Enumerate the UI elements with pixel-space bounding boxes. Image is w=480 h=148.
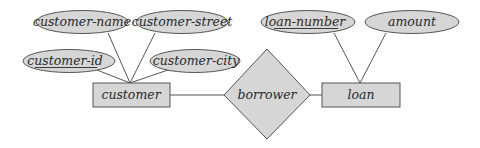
edge-amount <box>360 33 386 83</box>
entity-label: loan <box>347 87 374 102</box>
attribute-loan-number: loan-number <box>261 11 355 34</box>
entity-customer: customer <box>93 83 170 107</box>
attribute-label-primary-key: customer-id <box>27 53 102 68</box>
attribute-label: customer-name <box>33 14 131 29</box>
relationship-label: borrower <box>237 87 297 102</box>
er-diagram: customer-name customer-street customer-i… <box>0 0 480 148</box>
attribute-customer-name: customer-name <box>33 11 131 34</box>
attribute-label: customer-street <box>132 14 234 29</box>
attribute-label-primary-key: loan-number <box>265 14 347 29</box>
entity-loan: loan <box>322 83 400 107</box>
edge-loan-number <box>334 33 360 83</box>
attribute-customer-id: customer-id <box>23 50 115 73</box>
attribute-customer-street: customer-street <box>132 11 234 34</box>
attribute-label: amount <box>388 14 437 29</box>
attribute-customer-city: customer-city <box>150 50 240 73</box>
attribute-amount: amount <box>365 11 459 34</box>
entity-label: customer <box>101 87 161 102</box>
attribute-label: customer-city <box>153 53 240 68</box>
